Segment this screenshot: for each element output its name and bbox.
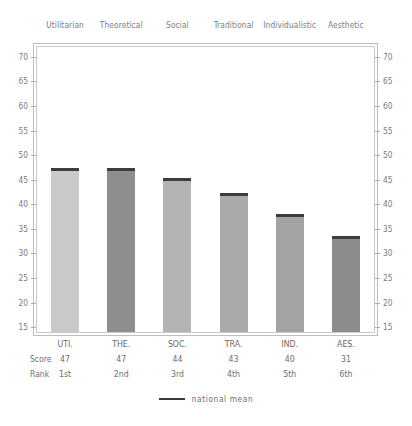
rank-cell-individualistic: 5th — [283, 369, 296, 379]
y-tick-left-20 — [31, 303, 36, 304]
y-tick-label-left-70: 70 — [19, 53, 29, 61]
national-mean-marker — [276, 214, 304, 217]
y-axis-right: 152025303540455055606570 — [375, 46, 412, 333]
y-tick-right-70 — [375, 57, 380, 58]
y-tick-left-55 — [31, 131, 36, 132]
category-header-row: Utilitarian Theoretical Social Tradition… — [36, 20, 376, 36]
y-tick-right-20 — [375, 303, 380, 304]
y-tick-right-55 — [375, 131, 380, 132]
national-mean-marker — [107, 168, 135, 171]
rank-row-label: Rank — [30, 369, 49, 379]
y-tick-label-right-65: 65 — [383, 77, 393, 85]
y-axis-left: 152025303540455055606570 — [0, 46, 36, 333]
category-header-utilitarian: Utilitarian — [46, 20, 84, 30]
y-tick-left-50 — [31, 155, 36, 156]
y-tick-label-left-65: 65 — [19, 77, 29, 85]
y-tick-label-left-35: 35 — [19, 225, 29, 233]
y-tick-right-15 — [375, 327, 380, 328]
abbr-cell-individualistic: IND. — [281, 339, 298, 349]
y-tick-label-left-60: 60 — [19, 102, 29, 110]
y-tick-right-45 — [375, 180, 380, 181]
national-mean-line-icon — [159, 398, 185, 401]
bar-social — [163, 178, 191, 332]
y-tick-label-right-50: 50 — [383, 151, 393, 159]
value-scores-bar-chart: Utilitarian Theoretical Social Tradition… — [0, 0, 412, 426]
y-tick-left-45 — [31, 180, 36, 181]
abbr-cell-theoretical: THE. — [112, 339, 130, 349]
y-tick-label-right-15: 15 — [383, 323, 393, 331]
y-tick-label-left-55: 55 — [19, 126, 29, 134]
abbr-cell-aesthetic: AES. — [337, 339, 355, 349]
y-tick-left-30 — [31, 253, 36, 254]
y-tick-label-right-30: 30 — [383, 249, 393, 257]
y-tick-label-right-25: 25 — [383, 274, 393, 282]
y-tick-left-15 — [31, 327, 36, 328]
national-mean-marker — [163, 178, 191, 181]
y-tick-label-right-55: 55 — [383, 126, 393, 134]
y-tick-right-65 — [375, 81, 380, 82]
rank-cell-social: 3rd — [171, 369, 184, 379]
y-tick-left-65 — [31, 81, 36, 82]
bar-utilitarian — [51, 168, 79, 332]
national-mean-marker — [332, 236, 360, 239]
bar-body — [220, 193, 248, 332]
score-cell-aesthetic: 31 — [341, 354, 351, 364]
y-tick-right-25 — [375, 278, 380, 279]
rank-cell-theoretical: 2nd — [114, 369, 129, 379]
y-tick-left-60 — [31, 106, 36, 107]
score-cell-social: 44 — [172, 354, 182, 364]
bar-theoretical — [107, 168, 135, 332]
bar-body — [163, 178, 191, 332]
y-tick-label-right-40: 40 — [383, 200, 393, 208]
y-tick-right-50 — [375, 155, 380, 156]
bar-individualistic — [276, 214, 304, 332]
chart-legend: national mean — [0, 392, 412, 406]
y-tick-label-left-20: 20 — [19, 298, 29, 306]
bar-body — [51, 168, 79, 332]
y-tick-right-35 — [375, 229, 380, 230]
rank-cell-aesthetic: 6th — [339, 369, 352, 379]
category-header-theoretical: Theoretical — [100, 20, 143, 30]
y-tick-label-right-60: 60 — [383, 102, 393, 110]
bar-body — [276, 214, 304, 332]
bar-traditional — [220, 193, 248, 332]
y-tick-left-35 — [31, 229, 36, 230]
y-tick-left-70 — [31, 57, 36, 58]
abbr-cell-social: SOC. — [168, 339, 187, 349]
national-mean-marker — [220, 193, 248, 196]
y-tick-right-60 — [375, 106, 380, 107]
y-tick-label-left-40: 40 — [19, 200, 29, 208]
category-header-individualistic: Individualistic — [263, 20, 316, 30]
y-tick-label-right-35: 35 — [383, 225, 393, 233]
abbr-cell-traditional: TRA. — [225, 339, 243, 349]
y-tick-label-right-20: 20 — [383, 298, 393, 306]
score-cell-utilitarian: 47 — [60, 354, 70, 364]
y-tick-left-25 — [31, 278, 36, 279]
y-tick-right-40 — [375, 204, 380, 205]
score-cell-individualistic: 40 — [285, 354, 295, 364]
score-row-label: Score — [30, 354, 51, 364]
rank-cell-traditional: 4th — [227, 369, 240, 379]
y-tick-label-left-45: 45 — [19, 176, 29, 184]
score-cell-theoretical: 47 — [116, 354, 126, 364]
plot-area — [37, 47, 374, 332]
bar-aesthetic — [332, 236, 360, 332]
category-header-aesthetic: Aesthetic — [328, 20, 364, 30]
y-tick-label-right-45: 45 — [383, 176, 393, 184]
category-header-social: Social — [166, 20, 189, 30]
score-cell-traditional: 43 — [229, 354, 239, 364]
y-tick-right-30 — [375, 253, 380, 254]
rank-cell-utilitarian: 1st — [59, 369, 71, 379]
bar-body — [332, 236, 360, 332]
y-tick-label-left-50: 50 — [19, 151, 29, 159]
abbr-cell-utilitarian: UTI. — [57, 339, 72, 349]
y-tick-label-left-15: 15 — [19, 323, 29, 331]
category-header-traditional: Traditional — [214, 20, 254, 30]
y-tick-left-40 — [31, 204, 36, 205]
y-tick-label-left-25: 25 — [19, 274, 29, 282]
legend-label-national-mean: national mean — [192, 394, 254, 404]
bar-body — [107, 168, 135, 332]
national-mean-marker — [51, 168, 79, 171]
y-tick-label-left-30: 30 — [19, 249, 29, 257]
y-tick-label-right-70: 70 — [383, 53, 393, 61]
